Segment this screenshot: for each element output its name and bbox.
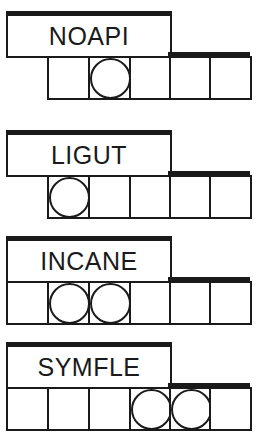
circle-icon [90,58,131,99]
circled-letter-cell[interactable] [129,387,172,431]
letter-cell[interactable] [6,281,49,325]
letter-cell[interactable] [169,175,212,219]
circle-icon [131,389,172,430]
letter-cell[interactable] [209,387,252,431]
scrambled-word-box: NOAPI [6,11,172,58]
letter-cell[interactable] [47,56,90,100]
letter-cell[interactable] [169,56,212,100]
letter-cell[interactable] [47,387,90,431]
letter-cell[interactable] [88,387,131,431]
scrambled-word-box: SYMFLE [6,342,172,389]
circled-letter-cell[interactable] [88,56,131,100]
scrambled-word-text: NOAPI [49,24,129,49]
scrambled-word-text: LIGUT [51,143,127,168]
letter-cell[interactable] [209,175,252,219]
circled-letter-cell[interactable] [47,175,90,219]
letter-cell[interactable] [129,175,172,219]
scrambled-word-puzzle: SYMFLE [0,342,260,441]
circled-letter-cell[interactable] [88,281,131,325]
letter-cell[interactable] [129,56,172,100]
circle-icon [49,177,90,218]
scrambled-word-text: SYMFLE [37,355,140,380]
letter-cell[interactable] [209,281,252,325]
circle-icon [171,389,212,430]
letter-cell[interactable] [169,281,212,325]
circle-icon [90,283,131,324]
letter-cell[interactable] [129,281,172,325]
scrambled-word-box: LIGUT [6,130,172,177]
scrambled-word-puzzle: INCANE [0,236,260,336]
scrambled-word-puzzle: NOAPI [0,11,260,111]
scrambled-word-text: INCANE [40,249,137,274]
scrambled-word-puzzle: LIGUT [0,130,260,230]
letter-cell[interactable] [6,387,49,431]
letter-cell[interactable] [88,175,131,219]
letter-cell[interactable] [209,56,252,100]
scrambled-word-box: INCANE [6,236,172,283]
circled-letter-cell[interactable] [169,387,212,431]
circle-icon [49,283,90,324]
circled-letter-cell[interactable] [47,281,90,325]
